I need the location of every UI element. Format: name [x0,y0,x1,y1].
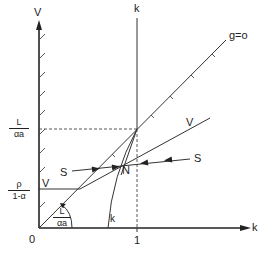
angle-label: L αa [53,207,71,228]
s-line [72,157,190,173]
y-tick-lower: ρ 1-α [8,180,30,201]
phase-diagram: V k 0 1 k g=o V V S S N k L αa ρ 1-α L α… [0,0,274,256]
s-arrow-right-2-icon [164,157,173,164]
v-axis-label: V [34,7,41,18]
v-axis-arrow-icon [36,20,42,30]
v-lower-label: V [42,178,49,189]
x-tick-label: 1 [134,235,140,246]
k-axis-label: k [252,222,258,233]
s-left-label: S [60,167,67,178]
origin-label: 0 [29,234,35,245]
k-axis-arrow-icon [240,225,251,231]
k-curve-label: k [110,214,115,224]
k-vertical-label: k [134,3,140,14]
equilibrium-point-label: N [122,165,130,176]
s-arrow-right-1-icon [140,160,149,167]
g-zero-label: g=o [229,30,248,41]
v-axis [36,20,45,228]
v-upper-label: V [186,117,193,128]
s-right-label: S [194,153,201,164]
g-zero-line [39,40,226,228]
y-tick-upper: L αa [9,118,29,139]
